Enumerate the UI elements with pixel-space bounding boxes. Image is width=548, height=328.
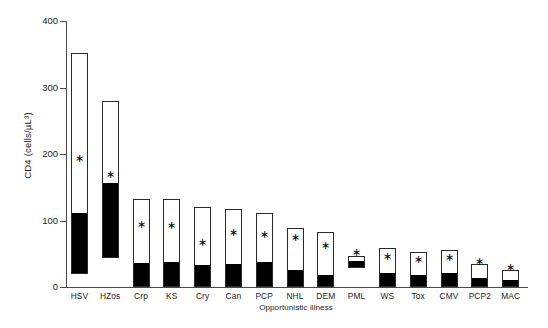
cd4-opportunistic-illness-chart: CD4 (cells/µL³) 0100200300400 ∗∗∗∗∗∗∗∗∗∗… xyxy=(0,0,548,328)
median-star-icon: ∗ xyxy=(472,256,487,267)
bar-black-segment xyxy=(411,275,426,286)
bar-black-segment xyxy=(72,213,87,273)
bar-crp[interactable]: ∗ xyxy=(133,199,150,287)
y-axis-tick-label: 300 xyxy=(18,83,58,92)
bar-black-segment xyxy=(472,278,487,286)
y-axis-tick-label: 400 xyxy=(18,16,58,25)
bar-pml[interactable]: ∗ xyxy=(348,256,365,269)
bar-black-segment xyxy=(164,262,179,286)
median-star-icon: ∗ xyxy=(288,232,303,243)
y-axis-tick-label: 100 xyxy=(18,216,58,225)
bar-nhl[interactable]: ∗ xyxy=(287,228,304,287)
median-star-icon: ∗ xyxy=(380,251,395,262)
bar-black-segment xyxy=(349,261,364,267)
bar-black-segment xyxy=(195,265,210,286)
plot-area: ∗∗∗∗∗∗∗∗∗∗∗∗∗∗∗ xyxy=(66,21,528,287)
x-tick-label-mac: MAC xyxy=(491,291,531,301)
y-axis-title: CD4 (cells/µL³) xyxy=(22,71,33,221)
median-star-icon: ∗ xyxy=(195,237,210,248)
bar-black-segment xyxy=(134,263,149,286)
y-axis-tick-label: 200 xyxy=(18,149,58,158)
bar-black-segment xyxy=(103,183,118,257)
bar-pcp[interactable]: ∗ xyxy=(256,213,273,287)
bar-hzos[interactable]: ∗ xyxy=(102,101,119,258)
bar-hsv[interactable]: ∗ xyxy=(71,53,88,274)
bar-mac[interactable]: ∗ xyxy=(502,270,519,287)
bar-black-segment xyxy=(318,275,333,286)
y-axis-tick-label: 0 xyxy=(18,282,58,291)
bar-black-segment xyxy=(288,270,303,286)
bar-tox[interactable]: ∗ xyxy=(410,252,427,287)
bar-cmv[interactable]: ∗ xyxy=(441,250,458,287)
y-axis-tick xyxy=(60,287,66,288)
median-star-icon: ∗ xyxy=(103,169,118,180)
bar-black-segment xyxy=(226,264,241,286)
median-star-icon: ∗ xyxy=(72,153,87,164)
median-star-icon: ∗ xyxy=(164,220,179,231)
bar-pcp2[interactable]: ∗ xyxy=(471,264,488,287)
median-star-icon: ∗ xyxy=(257,229,272,240)
x-axis-title: Opportunistic illness xyxy=(0,303,548,312)
median-star-icon: ∗ xyxy=(411,254,426,265)
x-axis-line xyxy=(66,287,528,288)
bar-black-segment xyxy=(257,262,272,286)
bar-black-segment xyxy=(380,273,395,286)
bar-can[interactable]: ∗ xyxy=(225,209,242,287)
bar-ks[interactable]: ∗ xyxy=(163,199,180,287)
bar-cry[interactable]: ∗ xyxy=(194,207,211,287)
median-star-icon: ∗ xyxy=(503,262,518,273)
bar-dem[interactable]: ∗ xyxy=(317,232,334,287)
figure-footer xyxy=(0,319,548,328)
median-star-icon: ∗ xyxy=(134,219,149,230)
x-axis-title-text: Opportunistic illness xyxy=(259,303,333,312)
median-star-icon: ∗ xyxy=(318,240,333,251)
bar-black-segment xyxy=(503,280,518,286)
bar-ws[interactable]: ∗ xyxy=(379,248,396,287)
y-axis-title-text: CD4 (cells/µL³) xyxy=(22,112,33,179)
bar-black-segment xyxy=(442,273,457,286)
median-star-icon: ∗ xyxy=(442,252,457,263)
median-star-icon: ∗ xyxy=(226,227,241,238)
median-star-icon: ∗ xyxy=(349,247,364,258)
